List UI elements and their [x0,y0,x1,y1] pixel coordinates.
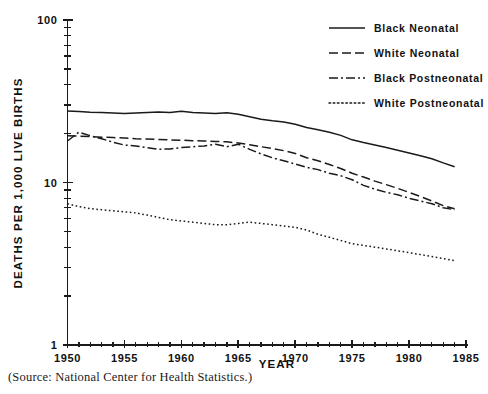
x-axis-tick-label: 1950 [54,352,81,364]
legend-label: Black Neonatal [374,22,459,34]
x-axis-tick-label: 1985 [453,352,480,364]
series-line-black-postneonatal [68,132,455,210]
x-axis-tick-label: 1965 [225,352,252,364]
figure-container: 100101 19501955196019651970197519801985 … [0,0,488,394]
x-axis-tick-label: 1975 [339,352,366,364]
legend-label: Black Postneonatal [374,72,483,84]
x-axis-tick-label: 1955 [111,352,138,364]
y-axis-tick-label: 100 [37,14,57,26]
x-axis-tick-label: 1960 [168,352,195,364]
infant-mortality-line-chart: 100101 19501955196019651970197519801985 … [0,0,488,394]
source-caption: (Source: National Center for Health Stat… [8,370,252,385]
y-axis-tick-label: 10 [44,177,57,189]
y-axis-title: DEATHS PER 1,000 LIVE BIRTHS [12,78,24,289]
legend-label: White Postneonatal [374,97,484,109]
y-axis: 100101 [37,14,72,351]
series-line-black-neonatal [68,111,455,167]
series-line-white-postneonatal [68,204,455,261]
x-axis-title: YEAR [259,358,295,370]
legend-label: White Neonatal [374,47,460,59]
x-axis-tick-label: 1980 [396,352,423,364]
series-lines [68,111,455,261]
chart-legend: Black NeonatalWhite NeonatalBlack Postne… [329,22,484,109]
series-line-white-neonatal [68,136,455,209]
y-axis-tick-label: 1 [51,339,58,351]
